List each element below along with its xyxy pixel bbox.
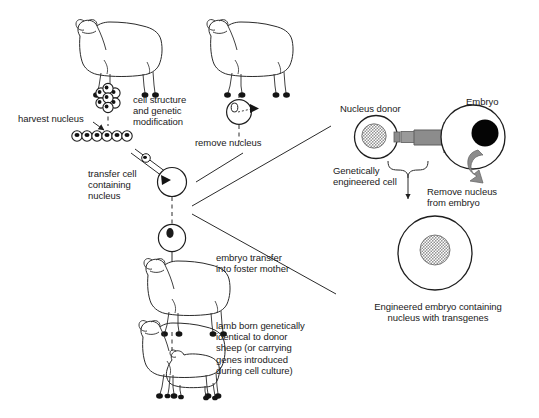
reconstructed-embryo — [158, 224, 185, 251]
cell-structure-and-genetic-modification-label: cell structure and genetic modification — [133, 94, 186, 128]
nucleus-donor-label: Nucleus donor — [340, 103, 401, 114]
harvest-nucleus-arrow — [93, 122, 104, 130]
diagram-canvas: harvest nucleus cell structure and genet… — [0, 0, 539, 418]
engineered-embryo — [398, 216, 472, 290]
embryo-label: Embryo — [466, 96, 498, 107]
egg-donor-sheep — [207, 20, 293, 98]
harvest-nucleus-label: harvest nucleus — [18, 113, 84, 124]
nucleus-donor-cell — [355, 116, 398, 159]
lamb-born-genetically-identical-label: lamb born genetically identical to donor… — [216, 320, 305, 376]
micropipette — [394, 132, 415, 143]
remove-nucleus-label: remove nucleus — [195, 137, 261, 148]
oocyte-with-nucleus — [227, 100, 259, 125]
engineered-embryo-caption-label: Engineered embryo containing nucleus wit… — [353, 301, 523, 323]
cell-cluster — [96, 83, 120, 112]
genetically-engineered-cell-label: Genetically engineered cell — [333, 165, 397, 187]
enucleated-egg — [158, 168, 187, 197]
remove-nucleus-from-embryo-label: Remove nucleus from embryo — [427, 186, 497, 208]
embryo-transfer-into-foster-mother-label: embryo transfer into foster mother — [216, 252, 289, 274]
cultured-cell-row — [72, 131, 132, 141]
transfer-cell-containing-nucleus-label: transfer cell containing nucleus — [88, 168, 136, 202]
donor-sheep — [76, 20, 162, 98]
remove-nucleus-pointer — [196, 153, 243, 182]
